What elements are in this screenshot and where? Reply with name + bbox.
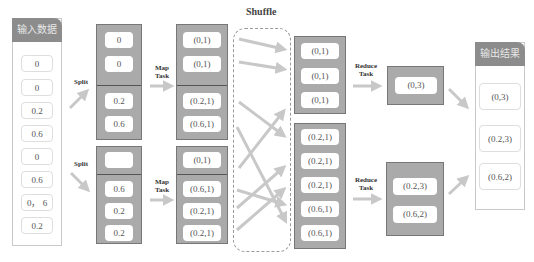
split-arrow-up [70, 92, 86, 108]
flow-arrows [0, 0, 534, 262]
shuffle-arrow [239, 39, 283, 49]
split-arrow-down [71, 173, 87, 189]
shuffle-arrow [239, 62, 283, 69]
output-arrow-top [449, 89, 466, 106]
shuffle-arrow [239, 112, 283, 168]
output-arrow-bottom [449, 178, 466, 194]
